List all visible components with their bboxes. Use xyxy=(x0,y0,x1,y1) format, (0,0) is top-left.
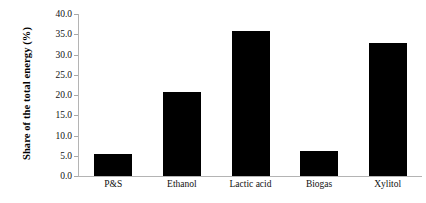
x-axis-tick-label: Biogas xyxy=(306,179,332,189)
x-axis-line xyxy=(78,176,422,177)
bar-chart: Share of the total energy (%) 0.05.010.0… xyxy=(0,0,426,203)
x-axis-tick-label: Ethanol xyxy=(167,179,197,189)
x-axis-tick-label: Xylitol xyxy=(374,179,401,189)
plot-area xyxy=(79,14,422,176)
y-axis-tick-label: 30.0 xyxy=(55,50,72,60)
y-axis-title: Share of the total energy (%) xyxy=(18,0,36,186)
y-axis-tick-label: 10.0 xyxy=(55,131,72,141)
x-axis-tick-label: P&S xyxy=(104,179,122,189)
y-axis-tick-label: 25.0 xyxy=(55,70,72,80)
x-axis-tick-labels: P&SEthanolLactic acidBiogasXylitol xyxy=(79,179,422,197)
bar xyxy=(163,92,201,176)
bar xyxy=(369,43,407,176)
y-axis-tick-label: 40.0 xyxy=(55,9,72,19)
bar xyxy=(300,151,338,176)
x-axis-tick-label: Lactic acid xyxy=(230,179,272,189)
y-axis-tick-label: 20.0 xyxy=(55,90,72,100)
y-axis-tick-label: 35.0 xyxy=(55,29,72,39)
y-axis-tick-label: 0.0 xyxy=(60,171,72,181)
y-axis-tick-label: 5.0 xyxy=(60,151,72,161)
y-axis-tick-label: 15.0 xyxy=(55,110,72,120)
bar xyxy=(94,154,132,176)
y-axis-tick-labels: 0.05.010.015.020.025.030.035.040.0 xyxy=(36,0,72,186)
y-axis-title-text: Share of the total energy (%) xyxy=(22,26,33,159)
bar xyxy=(232,31,270,176)
